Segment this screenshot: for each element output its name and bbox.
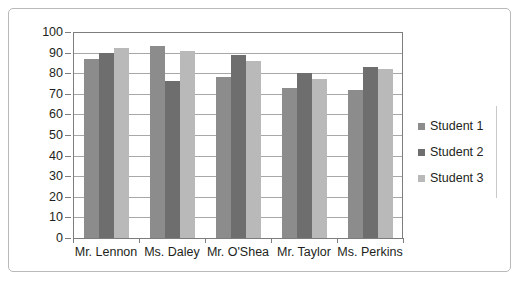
bar[interactable]: [231, 55, 246, 238]
value-axis-tick-label: 90: [29, 46, 63, 59]
value-axis-tickmark: [65, 156, 71, 157]
value-axis-tickmark: [65, 217, 71, 218]
bar[interactable]: [378, 69, 393, 238]
value-axis-tick-label: 70: [29, 88, 63, 101]
value-axis-tick-label: 50: [29, 129, 63, 142]
value-axis-labels: 1009080706050403020100: [23, 32, 63, 238]
value-axis-tickmark: [65, 53, 71, 54]
bar[interactable]: [84, 59, 99, 238]
value-axis-tick-label: 60: [29, 108, 63, 121]
bar[interactable]: [114, 48, 129, 238]
bar[interactable]: [297, 73, 312, 238]
bar-group: [205, 32, 271, 238]
legend-label: Student 2: [430, 145, 484, 159]
legend-swatch-icon: [418, 175, 425, 182]
legend-item[interactable]: Student 1: [418, 113, 504, 139]
value-axis-tickmark: [65, 135, 71, 136]
legend-label: Student 1: [430, 119, 484, 133]
category-axis-labels: Mr. LennonMs. DaleyMr. O'SheaMr. TaylorM…: [73, 245, 403, 263]
category-axis-tickmark: [337, 238, 338, 243]
value-axis-tick-label: 0: [29, 232, 63, 245]
category-axis-tickmark: [271, 238, 272, 243]
category-axis-tickmark: [205, 238, 206, 243]
value-axis-tickmark: [65, 238, 71, 239]
bar-series-layer: [73, 32, 403, 238]
bar[interactable]: [348, 90, 363, 238]
value-axis-tick-label: 20: [29, 191, 63, 204]
category-axis-tickmark: [139, 238, 140, 243]
value-axis-tickmark: [65, 114, 71, 115]
bar[interactable]: [282, 88, 297, 238]
category-axis-label: Ms. Daley: [139, 245, 205, 259]
bar[interactable]: [150, 46, 165, 238]
category-axis-tickmark: [403, 238, 404, 243]
category-axis-tickmarks: [73, 238, 404, 243]
bar-group: [271, 32, 337, 238]
bar[interactable]: [363, 67, 378, 238]
legend-swatch-icon: [418, 149, 425, 156]
value-axis-tickmark: [65, 73, 71, 74]
bar-group: [337, 32, 403, 238]
legend-label: Student 3: [430, 171, 484, 185]
legend-item[interactable]: Student 3: [418, 165, 504, 191]
value-axis-tickmark: [65, 32, 71, 33]
bar[interactable]: [312, 79, 327, 238]
bar-group: [139, 32, 205, 238]
value-axis-tickmark: [65, 176, 71, 177]
value-axis-tick-label: 80: [29, 67, 63, 80]
bar-group: [73, 32, 139, 238]
category-axis-label: Mr. Taylor: [271, 245, 337, 259]
bar[interactable]: [99, 53, 114, 238]
legend-swatch-icon: [418, 123, 425, 130]
value-axis-tick-label: 100: [29, 26, 63, 39]
value-axis-tick-label: 10: [29, 211, 63, 224]
category-axis-tickmark: [73, 238, 74, 243]
value-axis-tickmark: [65, 197, 71, 198]
bar[interactable]: [180, 51, 195, 238]
value-axis-tickmark: [65, 94, 71, 95]
category-axis-label: Ms. Perkins: [337, 245, 403, 259]
bar[interactable]: [216, 77, 231, 238]
category-axis-label: Mr. O'Shea: [205, 245, 271, 259]
legend-item[interactable]: Student 2: [418, 139, 504, 165]
bar[interactable]: [165, 81, 180, 238]
category-axis-label: Mr. Lennon: [73, 245, 139, 259]
value-axis-tick-label: 40: [29, 149, 63, 162]
value-axis-tick-label: 30: [29, 170, 63, 183]
chart-legend: Student 1Student 2Student 3: [418, 113, 504, 191]
chart-frame: 1009080706050403020100 Mr. LennonMs. Dal…: [8, 8, 511, 272]
bar[interactable]: [246, 61, 261, 238]
